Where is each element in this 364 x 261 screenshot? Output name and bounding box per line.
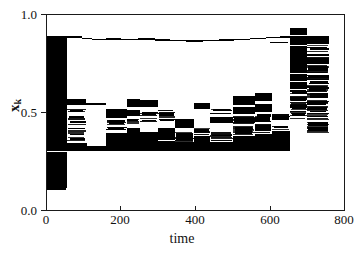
data-segment — [280, 36, 290, 37]
data-segment — [308, 127, 329, 132]
y-tick-label-0.5: 0.5 — [3, 106, 37, 119]
data-segment — [68, 128, 84, 130]
data-segment — [127, 110, 140, 116]
data-segment — [142, 120, 156, 121]
data-segment — [158, 128, 175, 140]
data-segment — [68, 124, 86, 125]
data-segment — [70, 139, 85, 140]
data-segment — [70, 110, 84, 112]
y-axis-title-subscript: k — [12, 99, 23, 105]
data-segment — [290, 82, 307, 89]
data-segment — [290, 65, 307, 73]
data-segment — [175, 119, 194, 128]
data-segment — [48, 179, 66, 182]
data-segment — [67, 36, 82, 39]
data-segment — [274, 126, 287, 127]
data-segment — [290, 74, 307, 81]
data-segment — [194, 103, 211, 108]
x-tick-mark-800 — [344, 206, 345, 211]
data-segment — [194, 129, 209, 132]
data-segment — [310, 93, 328, 98]
data-segment — [233, 136, 255, 152]
data-segment — [309, 87, 327, 91]
data-segment — [140, 132, 159, 146]
x-tick-label-0: 0 — [16, 213, 76, 226]
data-segment — [234, 118, 252, 123]
data-segment — [213, 110, 231, 111]
data-segment — [290, 36, 307, 45]
data-segment — [47, 62, 67, 101]
data-segment — [307, 36, 329, 44]
data-segment — [291, 100, 306, 101]
data-segment — [194, 134, 209, 135]
chart-figure: xk 1.0 0.5 0.0 0 200 400 600 800 time — [0, 0, 364, 261]
data-segment — [309, 83, 329, 84]
data-segment — [158, 141, 175, 150]
data-segment — [47, 187, 66, 191]
data-segment — [68, 130, 86, 132]
data-segment — [308, 101, 327, 103]
data-segment — [257, 114, 271, 116]
x-tick-mark-200 — [120, 206, 121, 211]
data-segment — [233, 123, 255, 124]
data-segment — [186, 40, 203, 41]
data-segment — [127, 128, 140, 144]
data-segment — [290, 56, 307, 64]
x-axis-title: time — [0, 231, 364, 247]
data-segment — [308, 54, 328, 55]
data-segment — [292, 107, 306, 109]
data-segment — [255, 93, 272, 101]
data-segment — [308, 75, 329, 77]
data-segment — [106, 146, 126, 152]
x-tick-label-200: 200 — [90, 213, 150, 226]
data-segment — [308, 107, 328, 109]
data-segment — [310, 116, 328, 117]
x-tick-label-800: 800 — [314, 213, 364, 226]
data-segment — [70, 134, 85, 135]
data-segment — [159, 113, 175, 114]
y-tick-label-1.0: 1.0 — [3, 8, 37, 21]
data-segment — [138, 38, 155, 39]
data-segment — [48, 141, 66, 144]
data-segment — [127, 121, 139, 122]
data-segment — [47, 167, 66, 170]
data-segment — [92, 39, 107, 40]
data-segment — [290, 118, 305, 119]
data-segment — [106, 109, 126, 119]
data-segment — [212, 135, 232, 137]
plot-area — [46, 14, 345, 211]
data-segment — [140, 100, 159, 107]
data-segment — [308, 122, 328, 126]
data-segment — [307, 132, 329, 133]
data-segment — [233, 107, 255, 115]
data-segment — [155, 39, 170, 40]
data-segment — [67, 99, 86, 105]
data-segment — [255, 104, 272, 113]
data-segment — [255, 132, 270, 133]
data-segment — [127, 119, 138, 121]
data-segment — [213, 109, 230, 110]
data-segment — [177, 133, 192, 134]
data-segment — [250, 38, 266, 39]
data-segment — [290, 46, 307, 56]
data-segment — [194, 136, 211, 150]
data-segment — [272, 131, 291, 151]
data-segment — [69, 116, 85, 118]
data-segment — [270, 42, 289, 43]
data-segment — [235, 127, 253, 128]
data-segment — [82, 38, 91, 40]
data-segment — [106, 129, 125, 130]
data-segment — [310, 47, 327, 49]
data-segment — [70, 121, 86, 123]
data-segment — [127, 122, 139, 124]
data-segment — [175, 142, 194, 150]
data-segment — [235, 130, 253, 134]
data-segment — [48, 109, 67, 112]
data-segment — [127, 99, 140, 107]
data-segment — [290, 28, 307, 35]
data-segment — [140, 146, 159, 152]
data-layer — [47, 15, 344, 210]
data-segment — [255, 121, 271, 122]
data-segment — [159, 116, 175, 118]
data-segment — [160, 120, 174, 121]
